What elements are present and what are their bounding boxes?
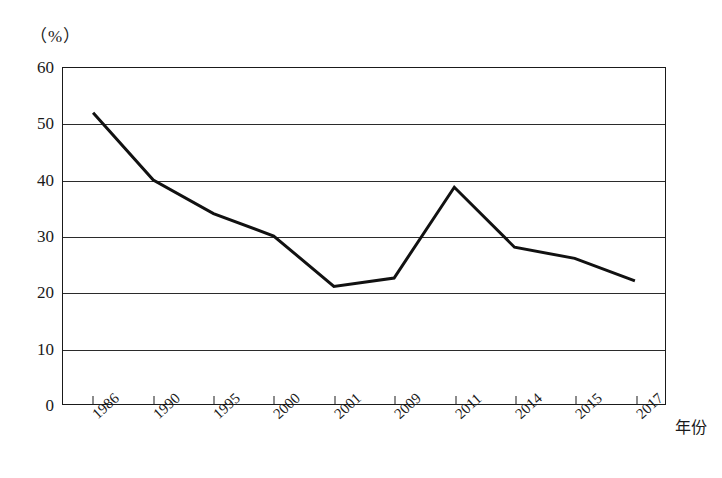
y-axis-tick-label: 20 [37, 283, 54, 303]
x-axis-title: 年份 [675, 414, 707, 438]
plot-area: 0102030405060 19861990199520002001200920… [62, 67, 666, 405]
y-axis-unit-label: （%） [30, 22, 81, 47]
y-axis-tick-label: 50 [37, 114, 54, 134]
y-axis-tick-label: 0 [46, 396, 55, 416]
line-series-svg [63, 68, 665, 404]
y-axis-tick-label: 10 [37, 340, 54, 360]
chart-page: （%） 0102030405060 1986199019952000200120… [0, 0, 722, 478]
y-axis-tick-label: 40 [37, 171, 54, 191]
y-axis-tick-label: 60 [37, 58, 54, 78]
y-axis-tick-label: 30 [37, 227, 54, 247]
data-line [93, 113, 635, 287]
